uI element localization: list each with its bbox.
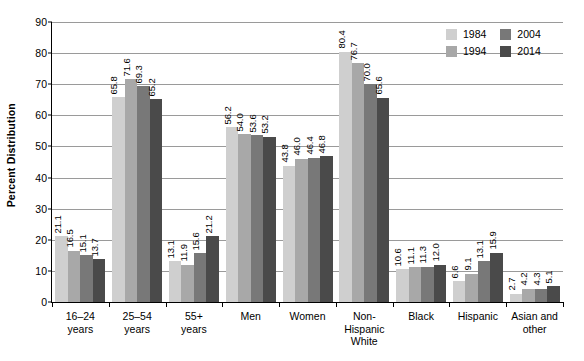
y-axis-title: Percent Distribution [2, 0, 20, 310]
legend-label: 2004 [517, 28, 540, 40]
bar-value-text: 76.7 [349, 42, 359, 60]
bar-group: 6.69.113.115.9 [453, 22, 503, 302]
legend-label: 1994 [463, 45, 486, 57]
bar: 21.2 [206, 236, 219, 302]
bar: 11.3 [421, 267, 434, 302]
bar-value-text: 21.1 [52, 215, 62, 233]
bar: 46.8 [320, 156, 333, 302]
bar: 15.6 [194, 253, 207, 302]
bar-value-text: 15.6 [191, 232, 201, 250]
x-axis-tick-mark [393, 302, 394, 307]
plot-area: 010203040506070809021.116.515.113.716–24… [51, 22, 563, 303]
bar: 80.4 [339, 52, 352, 302]
bar-value-text: 46.8 [317, 135, 327, 153]
bar: 53.2 [263, 137, 276, 303]
bar: 65.2 [150, 99, 163, 302]
legend-swatch [500, 46, 511, 57]
bar-value-text: 21.2 [203, 215, 213, 233]
bar: 76.7 [352, 63, 365, 302]
bar: 10.6 [396, 269, 409, 302]
bar-group: 10.611.111.312.0 [396, 22, 446, 302]
bar: 46.4 [308, 158, 321, 302]
bar-value-text: 13.1 [166, 240, 176, 258]
x-axis-tick-mark [109, 302, 110, 307]
bar-value-text: 65.2 [146, 78, 156, 96]
x-axis-tick-mark [336, 302, 337, 307]
bar-group: 56.254.053.653.2 [226, 22, 276, 302]
bar-value-text: 6.6 [450, 266, 460, 279]
bar-value-text: 46.4 [304, 137, 314, 155]
bar: 2.7 [510, 294, 523, 302]
bar-value-text: 12.0 [430, 244, 440, 262]
bar: 4.3 [535, 289, 548, 302]
y-axis-tick-label: 90 [35, 16, 52, 28]
legend-swatch [446, 29, 457, 40]
bar-group: 2.74.24.35.1 [510, 22, 560, 302]
bar-value-text: 13.1 [475, 240, 485, 258]
bar-value-text: 15.1 [77, 234, 87, 252]
bar: 9.1 [465, 274, 478, 302]
bar-value-text: 11.9 [178, 245, 188, 262]
bar-value-text: 4.2 [519, 273, 529, 286]
legend-swatch [500, 29, 511, 40]
x-axis-tick-mark [449, 302, 450, 307]
y-axis-tick-label: 70 [35, 78, 52, 90]
y-axis-tick-label: 20 [35, 234, 52, 246]
y-axis-tick-label: 60 [35, 109, 52, 121]
legend-label: 2014 [517, 45, 540, 57]
bar: 6.6 [453, 281, 466, 302]
bar: 43.8 [283, 166, 296, 302]
bar: 65.8 [112, 97, 125, 302]
bar-value-text: 5.1 [544, 270, 554, 283]
bar-value-text: 4.3 [531, 273, 541, 286]
bar: 15.9 [490, 253, 503, 302]
y-axis-tick-label: 10 [35, 265, 52, 277]
bar: 54.0 [238, 134, 251, 302]
bar-group: 43.846.046.446.8 [283, 22, 333, 302]
bar-value-text: 53.6 [247, 114, 257, 132]
x-axis-tick-mark [279, 302, 280, 307]
bar-chart-figure: Percent Distribution 0102030405060708090… [0, 0, 584, 361]
bar: 56.2 [226, 127, 239, 302]
bar: 5.1 [547, 286, 560, 302]
bar-value-text: 2.7 [506, 278, 516, 291]
y-axis-title-text: Percent Distribution [5, 103, 17, 207]
bar: 65.6 [377, 98, 390, 302]
bar: 70.0 [364, 84, 377, 302]
bar-value-text: 11.1 [405, 247, 415, 264]
bar: 69.3 [137, 86, 150, 302]
bar-value-text: 16.5 [65, 230, 75, 248]
bar: 12.0 [434, 265, 447, 302]
x-axis-tick-mark [563, 302, 564, 307]
bar: 11.1 [409, 267, 422, 302]
bar: 4.2 [522, 289, 535, 302]
bar: 53.6 [251, 135, 264, 302]
bar: 13.1 [478, 261, 491, 302]
y-axis-tick-label: 50 [35, 140, 52, 152]
bar-value-text: 54.0 [235, 113, 245, 131]
x-axis-tick-mark [222, 302, 223, 307]
legend-swatch [446, 46, 457, 57]
bar-value-text: 9.1 [462, 258, 472, 271]
bar-value-text: 43.8 [279, 145, 289, 163]
bar-value-text: 71.6 [121, 58, 131, 76]
bar-group: 65.871.669.365.2 [112, 22, 162, 302]
y-axis-tick-label: 80 [35, 47, 52, 59]
bar-value-text: 80.4 [336, 31, 346, 49]
bar-value-text: 46.0 [292, 138, 302, 156]
bar-value-text: 11.3 [418, 246, 428, 263]
bar: 13.7 [93, 259, 106, 302]
x-axis-tick-mark [166, 302, 167, 307]
chart-legend: 1984200419942014 [446, 28, 549, 57]
y-axis-tick-label: 0 [41, 296, 52, 308]
bar: 11.9 [181, 265, 194, 302]
bar-value-text: 56.2 [222, 106, 232, 124]
x-axis-tick-mark [52, 302, 53, 307]
bar-value-text: 13.7 [90, 238, 100, 256]
bar-group: 80.476.770.065.6 [339, 22, 389, 302]
bar-value-text: 53.2 [260, 115, 270, 133]
bar: 16.5 [68, 251, 81, 302]
bar: 46.0 [295, 159, 308, 302]
bar-value-text: 69.3 [134, 65, 144, 83]
y-axis-tick-label: 40 [35, 172, 52, 184]
